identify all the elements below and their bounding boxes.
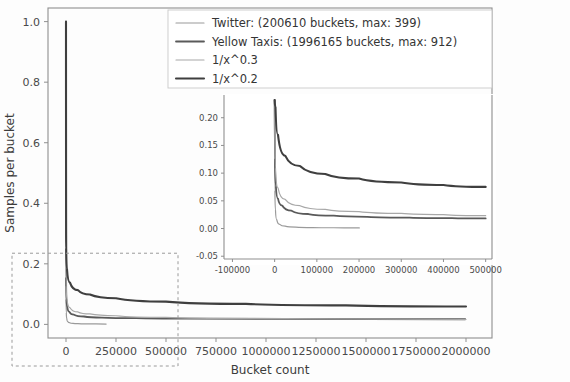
x-axis: 0250000500000750000100000012500001500000… (63, 338, 491, 377)
inset-x-tick-label: 500000 (469, 265, 501, 275)
inset-y-tick-label: 0.00 (199, 224, 218, 234)
x-tick-label: 2000000 (442, 345, 491, 358)
x-tick-label: 500000 (145, 345, 187, 358)
x-tick-label: 250000 (95, 345, 137, 358)
x-tick-label: 1500000 (342, 345, 391, 358)
y-tick-label: 0.2 (23, 258, 41, 271)
inset-x-tick-label: 100000 (301, 265, 333, 275)
inset-x-tick-label: 300000 (385, 265, 417, 275)
y-axis-title: Samples per bucket (3, 113, 17, 233)
inset-y-tick-label: 0.05 (199, 196, 218, 206)
curve-twitter (66, 22, 106, 324)
inset-x-tick-label: -100000 (215, 265, 251, 275)
x-tick-label: 750000 (195, 345, 237, 358)
inset-y-tick-label: 0.10 (199, 168, 218, 178)
inset-y-axis: -0.050.000.050.100.150.20 (196, 113, 224, 262)
y-tick-label: 1.0 (23, 16, 41, 29)
x-tick-label: 1750000 (392, 345, 441, 358)
x-tick-label: 0 (63, 345, 70, 358)
y-tick-label: 0.0 (23, 318, 41, 331)
x-axis-title: Bucket count (231, 363, 310, 377)
y-tick-label: 0.4 (23, 197, 41, 210)
legend-label-2: 1/x^0.3 (212, 53, 258, 67)
inset-x-tick-label: 400000 (427, 265, 459, 275)
legend-label-1: Yellow Taxis: (1996165 buckets, max: 912… (211, 35, 457, 49)
inset-x-tick-label: 200000 (343, 265, 375, 275)
inset-axes: -1000000100000200000300000400000500000-0… (196, 94, 502, 275)
x-tick-label: 1250000 (292, 345, 341, 358)
y-tick-label: 0.8 (23, 76, 41, 89)
x-tick-label: 1000000 (242, 345, 291, 358)
figure-canvas: 0250000500000750000100000012500001500000… (0, 0, 570, 382)
legend: Twitter: (200610 buckets, max: 399)Yello… (168, 10, 492, 88)
inset-y-tick-label: -0.05 (196, 251, 218, 261)
legend-label-0: Twitter: (200610 buckets, max: 399) (211, 16, 421, 30)
y-tick-label: 0.6 (23, 137, 41, 150)
inset-y-tick-label: 0.15 (199, 140, 218, 150)
y-axis: 0.00.20.40.60.81.0Samples per bucket (3, 16, 48, 332)
legend-label-3: 1/x^0.2 (212, 72, 258, 86)
inset-y-tick-label: 0.20 (199, 113, 218, 123)
inset-x-tick-label: 0 (272, 265, 277, 275)
chart-svg: 0250000500000750000100000012500001500000… (0, 0, 570, 382)
